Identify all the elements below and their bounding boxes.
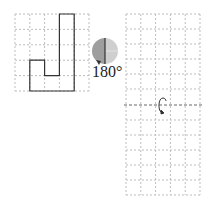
- diagram-canvas: [0, 0, 211, 202]
- j-shape: [30, 14, 74, 91]
- right-grid-top: [126, 14, 200, 195]
- rotation-180-icon: [92, 38, 118, 65]
- left-grid: [15, 14, 89, 91]
- right-grid-bottom: [126, 120, 200, 195]
- rotation-angle-label: 180°: [92, 63, 122, 81]
- flip-arrow-icon: [159, 98, 166, 114]
